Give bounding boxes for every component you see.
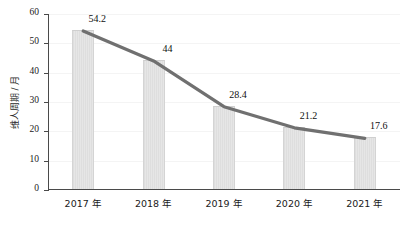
- x-axis-tick-label: 2019 年: [205, 196, 242, 210]
- bar: [213, 106, 235, 189]
- x-axis-tick-label: 2021 年: [346, 196, 383, 210]
- y-axis-tick: 40: [44, 73, 49, 74]
- data-label: 28.4: [229, 89, 247, 100]
- gridline: [49, 43, 400, 44]
- x-axis-tick-label: 2017 年: [65, 196, 102, 210]
- y-axis-tick-label: 10: [30, 154, 40, 164]
- y-axis-tick: 0: [44, 190, 49, 191]
- x-axis-tick-label: 2018 年: [135, 196, 172, 210]
- bar: [354, 137, 376, 189]
- x-axis-tick-label: 2020 年: [276, 196, 313, 210]
- y-axis-title: 维人周期 / 月: [8, 63, 21, 143]
- gridline: [49, 73, 400, 74]
- y-axis-tick: 20: [44, 131, 49, 132]
- bar: [72, 30, 94, 189]
- data-label: 44: [163, 43, 173, 54]
- y-axis-tick-label: 0: [34, 183, 39, 193]
- y-axis-tick-label: 40: [30, 66, 40, 76]
- y-axis-tick: 50: [44, 43, 49, 44]
- data-label: 17.6: [370, 120, 388, 131]
- y-axis-tick: 10: [44, 161, 49, 162]
- y-axis-tick-label: 50: [30, 36, 40, 46]
- bar: [283, 127, 305, 189]
- y-axis-tick-label: 60: [30, 7, 40, 17]
- x-axis-line: [48, 189, 400, 190]
- plot-area: 0102030405060 54.24428.421.217.6 2017 年2…: [48, 14, 400, 190]
- data-label: 21.2: [300, 110, 318, 121]
- data-label: 54.2: [88, 13, 106, 24]
- y-axis-tick: 30: [44, 102, 49, 103]
- chart-container: 维人周期 / 月 0102030405060 54.24428.421.217.…: [0, 0, 413, 231]
- gridline: [49, 102, 400, 103]
- y-axis-tick-label: 20: [30, 124, 40, 134]
- y-axis-tick-label: 30: [30, 95, 40, 105]
- bar: [143, 60, 165, 189]
- y-axis-tick: 60: [44, 14, 49, 15]
